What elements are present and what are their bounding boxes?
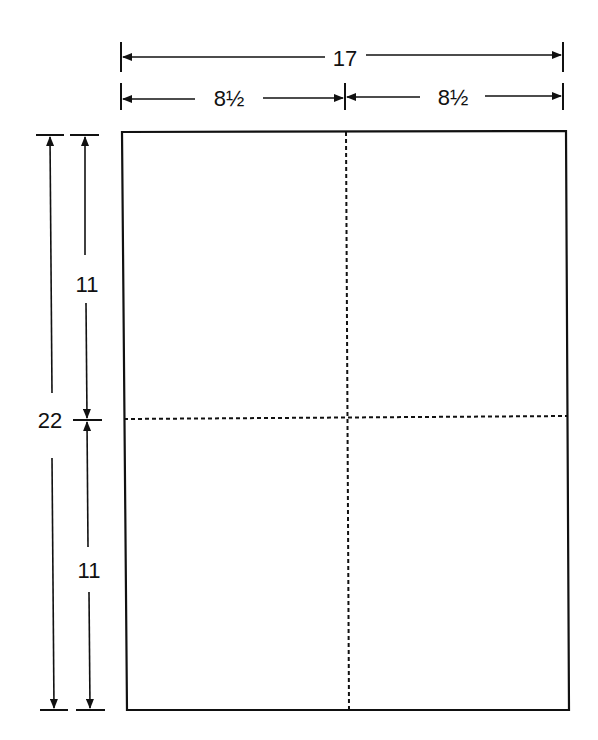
- left-half-width-label: 8½: [214, 86, 245, 111]
- overall-width-dimension: 17: [121, 42, 563, 72]
- right-half-width-label: 8½: [438, 85, 469, 110]
- sheet-dimension-diagram: 17 8½ 8½ 22 11 11: [0, 0, 598, 740]
- sheet: [122, 131, 569, 710]
- bottom-half-height-label: 11: [78, 558, 101, 583]
- horizontal-fold-line: [124, 416, 567, 419]
- vertical-fold-line: [346, 132, 349, 710]
- half-height-dimensions: 11 11: [70, 135, 105, 710]
- overall-height-dimension: 22: [36, 135, 68, 710]
- overall-height-label: 22: [38, 408, 62, 433]
- top-half-height-label: 11: [76, 272, 99, 297]
- half-width-dimensions: 8½ 8½: [121, 83, 563, 111]
- overall-width-label: 17: [333, 46, 357, 71]
